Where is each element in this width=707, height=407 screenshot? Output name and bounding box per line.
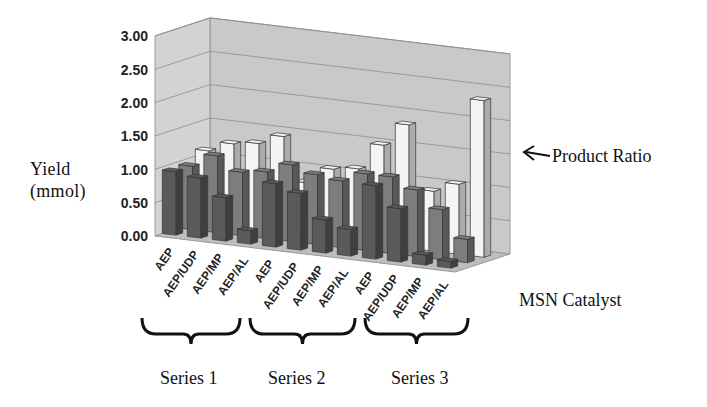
bar-front-side bbox=[201, 176, 208, 238]
series-1-label: Series 1 bbox=[160, 368, 218, 389]
bar-middle-side bbox=[418, 188, 425, 257]
bar-front-side bbox=[176, 170, 183, 236]
bar-front-side bbox=[401, 207, 408, 263]
bar-front bbox=[212, 196, 226, 241]
bar-front-side bbox=[376, 184, 383, 260]
bar-front bbox=[387, 207, 401, 262]
bar-front-side bbox=[351, 227, 358, 256]
series-3-brace bbox=[365, 318, 468, 344]
bar-front bbox=[337, 228, 351, 256]
series-1-brace bbox=[142, 318, 240, 344]
product-ratio-annotation: Product Ratio bbox=[552, 146, 652, 167]
series-2-label: Series 2 bbox=[268, 368, 326, 389]
bar-front-side bbox=[276, 182, 283, 248]
bar-chart-3d bbox=[0, 0, 707, 407]
bar-front-side bbox=[226, 196, 233, 242]
bar-middle bbox=[429, 208, 443, 260]
x-axis-title: MSN Catalyst bbox=[519, 290, 622, 311]
bar-product-ratio-side bbox=[484, 98, 491, 257]
bar-front bbox=[187, 176, 201, 238]
bar-middle-side bbox=[468, 237, 475, 263]
bar-front-side bbox=[326, 218, 333, 254]
series-2-brace bbox=[250, 318, 355, 344]
bar-front bbox=[262, 182, 276, 247]
bar-front bbox=[312, 218, 326, 253]
bar-front bbox=[237, 229, 251, 244]
bar-front-side bbox=[251, 229, 258, 245]
series-3-label: Series 3 bbox=[391, 368, 449, 389]
bar-product-ratio bbox=[470, 99, 484, 257]
bar-front bbox=[287, 192, 301, 250]
bar-middle-side bbox=[243, 170, 250, 236]
bar-front-side bbox=[301, 191, 308, 250]
bar-front bbox=[362, 184, 376, 259]
bar-middle-side bbox=[443, 208, 450, 260]
bar-front bbox=[162, 170, 176, 235]
